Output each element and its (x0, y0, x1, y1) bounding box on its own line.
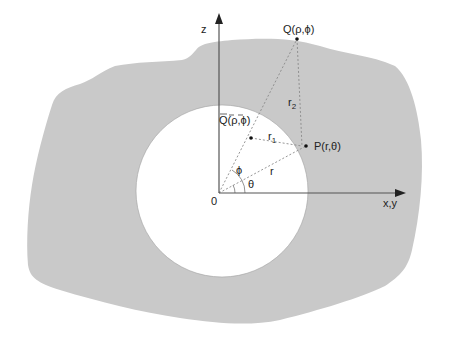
point-Qbar-coords: (ρ,ϕ) (228, 114, 251, 126)
origin-label: 0 (211, 195, 217, 207)
point-Qbar-label: Q(ρ,ϕ) (219, 114, 250, 126)
angle-theta-label: θ (248, 178, 254, 190)
point-Q (295, 37, 299, 41)
r2-subscript: 2 (292, 102, 297, 111)
point-P (304, 144, 308, 148)
r1-subscript: 1 (272, 136, 277, 145)
z-axis-label: z (201, 23, 207, 35)
spherical-cavity (136, 105, 308, 277)
point-P-label: P(r,θ) (314, 140, 341, 152)
distance-r-label: r (270, 165, 274, 177)
z-axis-arrowhead-icon (215, 13, 223, 24)
angle-phi-label: ϕ (236, 164, 242, 176)
xy-axis-label: x,y (383, 197, 398, 209)
green-function-geometry-diagram: z x,y 0 Q(ρ,ϕ) P(r,θ) Q(ρ,ϕ) r r1 r2 ϕ θ (0, 0, 464, 338)
point-Q-label: Q(ρ,ϕ) (283, 23, 314, 35)
point-Qbar (249, 136, 253, 140)
